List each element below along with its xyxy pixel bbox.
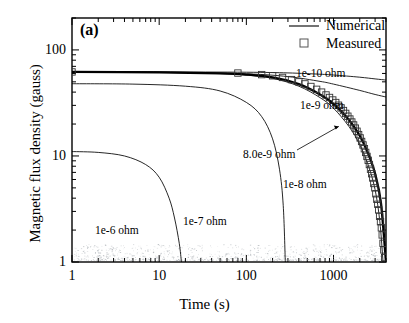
noise-speck xyxy=(107,254,108,255)
noise-speck xyxy=(225,255,226,256)
curve-label-1e-10: 1e-10 ohm xyxy=(296,67,346,79)
noise-speck xyxy=(368,257,369,258)
noise-speck xyxy=(314,245,315,246)
noise-speck xyxy=(120,250,121,251)
noise-speck xyxy=(151,258,152,259)
noise-speck xyxy=(163,257,164,258)
noise-speck xyxy=(113,247,114,248)
noise-speck xyxy=(216,260,217,261)
noise-speck xyxy=(77,252,78,253)
noise-speck xyxy=(263,259,264,260)
noise-speck xyxy=(190,256,191,257)
noise-speck xyxy=(320,247,321,248)
noise-speck xyxy=(78,260,79,261)
noise-speck xyxy=(125,260,126,261)
noise-speck xyxy=(242,249,243,250)
noise-speck xyxy=(101,260,102,261)
noise-speck xyxy=(214,259,215,260)
noise-speck xyxy=(101,250,102,251)
noise-speck xyxy=(351,252,352,253)
noise-speck xyxy=(238,246,239,247)
noise-speck xyxy=(339,260,340,261)
noise-speck xyxy=(279,256,280,257)
noise-speck xyxy=(115,248,116,249)
noise-speck xyxy=(307,251,308,252)
noise-speck xyxy=(307,259,308,260)
noise-speck xyxy=(127,253,128,254)
noise-speck xyxy=(161,260,162,261)
noise-speck xyxy=(276,252,277,253)
noise-speck xyxy=(154,246,155,247)
noise-speck xyxy=(215,254,216,255)
noise-speck xyxy=(130,260,131,261)
noise-speck xyxy=(228,247,229,248)
noise-speck xyxy=(109,249,110,250)
noise-speck xyxy=(148,249,149,250)
noise-speck xyxy=(341,250,342,251)
noise-speck xyxy=(199,246,200,247)
noise-speck xyxy=(292,252,293,253)
noise-speck xyxy=(235,254,236,255)
noise-speck xyxy=(276,253,277,254)
noise-speck xyxy=(250,255,251,256)
noise-speck xyxy=(88,257,89,258)
noise-speck xyxy=(256,252,257,253)
x-tick-label: 1000 xyxy=(320,268,348,284)
noise-speck xyxy=(173,258,174,259)
noise-speck xyxy=(87,251,88,252)
noise-speck xyxy=(202,245,203,246)
noise-speck xyxy=(365,259,366,260)
noise-speck xyxy=(131,258,132,259)
noise-speck xyxy=(221,256,222,257)
noise-speck xyxy=(369,256,370,257)
noise-speck xyxy=(282,246,283,247)
noise-speck xyxy=(108,258,109,259)
noise-speck xyxy=(123,245,124,246)
noise-speck xyxy=(374,253,375,254)
noise-speck xyxy=(143,256,144,257)
noise-speck xyxy=(209,254,210,255)
noise-speck xyxy=(84,260,85,261)
noise-speck xyxy=(111,246,112,247)
noise-speck xyxy=(238,256,239,257)
noise-speck xyxy=(375,256,376,257)
noise-speck xyxy=(372,260,373,261)
noise-speck xyxy=(343,260,344,261)
noise-speck xyxy=(182,260,183,261)
noise-speck xyxy=(342,259,343,260)
noise-speck xyxy=(137,253,138,254)
noise-speck xyxy=(262,260,263,261)
noise-speck xyxy=(159,256,160,257)
noise-speck xyxy=(97,260,98,261)
noise-speck xyxy=(98,251,99,252)
noise-speck xyxy=(153,252,154,253)
noise-speck xyxy=(204,259,205,260)
noise-speck xyxy=(199,260,200,261)
noise-speck xyxy=(193,249,194,250)
noise-speck xyxy=(348,247,349,248)
noise-speck xyxy=(270,245,271,246)
noise-speck xyxy=(110,260,111,261)
noise-speck xyxy=(257,252,258,253)
noise-speck xyxy=(107,256,108,257)
noise-speck xyxy=(80,260,81,261)
noise-speck xyxy=(141,254,142,255)
noise-speck xyxy=(105,259,106,260)
noise-speck xyxy=(236,247,237,248)
noise-speck xyxy=(132,258,133,259)
noise-speck xyxy=(129,259,130,260)
noise-speck xyxy=(303,260,304,261)
noise-speck xyxy=(264,260,265,261)
noise-speck xyxy=(329,246,330,247)
noise-speck xyxy=(159,245,160,246)
noise-speck xyxy=(291,250,292,251)
noise-speck xyxy=(257,248,258,249)
noise-speck xyxy=(132,255,133,256)
noise-speck xyxy=(240,260,241,261)
noise-speck xyxy=(314,251,315,252)
x-tick-label: 1 xyxy=(69,268,76,284)
noise-speck xyxy=(104,260,105,261)
noise-speck xyxy=(301,260,302,261)
noise-speck xyxy=(275,253,276,254)
noise-speck xyxy=(294,246,295,247)
